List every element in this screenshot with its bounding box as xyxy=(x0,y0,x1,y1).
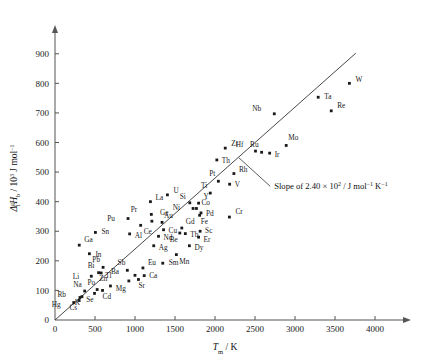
y-tick-label: 900 xyxy=(36,49,50,59)
data-point-label: Co xyxy=(201,198,210,207)
x-tick-label: 1500 xyxy=(166,324,185,334)
data-point-label: Sn xyxy=(101,227,109,236)
data-point-marker xyxy=(152,244,155,247)
data-point-label: Hf xyxy=(236,140,244,149)
y-tick-label: 600 xyxy=(36,138,50,148)
data-point-label: Hg xyxy=(52,300,61,309)
data-point-marker xyxy=(127,280,130,283)
data-point-label: Sc xyxy=(205,226,213,235)
data-point-label: Dy xyxy=(194,243,203,252)
data-point-marker xyxy=(161,262,164,265)
data-point-label: Er xyxy=(204,235,211,244)
x-tick-label: 3000 xyxy=(286,324,305,334)
data-point-marker xyxy=(197,202,200,205)
data-point-marker xyxy=(100,272,103,275)
x-tick-label: 500 xyxy=(88,324,102,334)
scatter-plot: HgCsRbKNaSePoCdZnMgBaSrCaLiBiTlPbSbEuSmM… xyxy=(0,0,426,362)
data-point-label: Cd xyxy=(103,292,112,301)
data-point-marker xyxy=(232,172,235,175)
data-point-label: V xyxy=(235,180,241,189)
data-point-marker xyxy=(197,236,200,239)
data-point-marker xyxy=(149,200,152,203)
x-tick-label: 3500 xyxy=(326,324,345,334)
data-point-label: U xyxy=(173,186,179,195)
data-point-label: Pr xyxy=(131,205,138,214)
data-point-marker xyxy=(143,274,146,277)
x-tick-label: 4000 xyxy=(366,324,385,334)
data-point-label: Gd xyxy=(186,217,195,226)
data-point-marker xyxy=(228,216,231,219)
data-point-label: Th xyxy=(222,156,230,165)
data-point-marker xyxy=(215,159,218,162)
data-point-marker xyxy=(260,151,263,154)
data-point-label: Sr xyxy=(138,281,145,290)
data-point-marker xyxy=(192,207,195,210)
data-point-label: Fe xyxy=(201,217,208,226)
data-point-marker xyxy=(96,288,99,291)
data-point-marker xyxy=(93,292,96,295)
data-point-marker xyxy=(128,233,131,236)
data-point-label: Eu xyxy=(148,258,156,267)
data-point-marker xyxy=(195,207,198,210)
data-point-label: Ta xyxy=(324,92,332,101)
y-tick-label: 300 xyxy=(36,226,50,236)
data-point-label: Po xyxy=(87,278,95,287)
data-point-marker xyxy=(126,269,129,272)
data-point-marker xyxy=(198,214,201,217)
data-point-label: Ca xyxy=(149,271,158,280)
data-point-marker xyxy=(317,96,320,99)
data-point-marker xyxy=(109,285,112,288)
y-tick-label: 500 xyxy=(36,167,50,177)
data-point-label: Mg xyxy=(116,284,126,293)
data-point-label: Li xyxy=(73,272,80,281)
data-point-marker xyxy=(228,183,231,186)
y-tick-label: 400 xyxy=(36,197,50,207)
data-point-label: Nb xyxy=(252,104,261,113)
data-point-marker xyxy=(139,224,142,227)
data-point-marker xyxy=(101,289,104,292)
data-point-label: Ni xyxy=(173,203,180,212)
data-point-marker xyxy=(330,109,333,112)
data-point-label: Ga xyxy=(84,235,93,244)
x-tick-label: 1000 xyxy=(126,324,145,334)
data-point-label: Ag xyxy=(159,243,168,252)
data-point-marker xyxy=(134,274,137,277)
data-point-marker xyxy=(150,213,153,216)
data-point-label: Mo xyxy=(288,133,298,142)
data-point-marker xyxy=(137,278,140,281)
data-point-marker xyxy=(209,192,212,195)
data-point-marker xyxy=(188,201,191,204)
data-point-marker xyxy=(175,253,178,256)
data-point-marker xyxy=(199,230,202,233)
data-point-label: Ce xyxy=(144,227,152,236)
data-point-label: Pu xyxy=(107,214,115,223)
data-point-label: Al xyxy=(135,231,142,240)
data-point-marker xyxy=(83,290,86,293)
data-point-label: In xyxy=(95,250,101,259)
data-point-marker xyxy=(150,220,153,223)
data-point-marker xyxy=(180,227,183,230)
data-point-label: Rh xyxy=(239,165,248,174)
data-point-marker xyxy=(184,232,187,235)
data-point-marker xyxy=(166,193,169,196)
data-point-label: Re xyxy=(337,101,345,110)
data-point-label: Ir xyxy=(275,150,280,159)
data-point-marker xyxy=(254,150,257,153)
data-point-label: Sm xyxy=(169,258,179,267)
data-point-label: Rb xyxy=(57,290,66,299)
data-point-label: La xyxy=(155,193,163,202)
data-point-label: Ru xyxy=(250,140,259,149)
data-point-label: Pt xyxy=(209,169,215,178)
data-point-marker xyxy=(285,144,288,147)
data-point-label: Be xyxy=(170,235,178,244)
data-point-marker xyxy=(97,271,100,274)
data-point-marker xyxy=(94,231,97,234)
y-tick-label: 700 xyxy=(36,108,50,118)
data-point-marker xyxy=(268,152,271,155)
y-tick-label: 200 xyxy=(36,256,50,266)
data-point-label: Sb xyxy=(118,258,126,267)
y-tick-label: 800 xyxy=(36,79,50,89)
x-tick-label: 2000 xyxy=(206,324,225,334)
data-point-label: Mn xyxy=(179,257,189,266)
data-point-label: Se xyxy=(86,295,93,304)
